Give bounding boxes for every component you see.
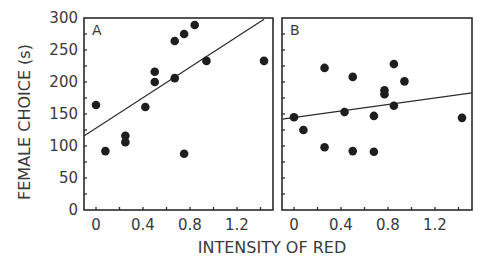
panel-b: 00.40.81.2B xyxy=(282,18,473,234)
data-point xyxy=(348,147,357,156)
data-point xyxy=(380,90,389,99)
panel-label: A xyxy=(92,22,102,38)
y-tick-label: 150 xyxy=(49,105,78,123)
data-point xyxy=(390,101,399,110)
panel-a: 00.40.81.2A xyxy=(84,18,273,234)
plot-frame xyxy=(84,18,273,210)
data-point xyxy=(340,108,349,117)
data-point xyxy=(348,73,357,82)
panel-label: B xyxy=(290,22,300,38)
data-point xyxy=(190,21,199,30)
data-point xyxy=(320,143,329,152)
y-tick-label: 50 xyxy=(59,169,78,187)
data-point xyxy=(390,60,399,69)
data-point xyxy=(101,147,110,156)
data-point xyxy=(92,101,101,110)
data-point xyxy=(370,147,379,156)
data-point xyxy=(370,112,379,121)
data-point xyxy=(458,114,467,123)
data-point xyxy=(320,64,329,73)
data-point xyxy=(170,74,179,83)
data-point xyxy=(180,149,189,158)
scatter-chart: 00.40.81.2A00.40.81.2B050100150200250300… xyxy=(0,0,488,270)
data-point xyxy=(141,103,150,112)
data-point xyxy=(121,138,130,147)
y-tick-label: 200 xyxy=(49,73,78,91)
data-point xyxy=(290,113,299,122)
x-axis-title: INTENSITY OF RED xyxy=(198,238,346,257)
x-tick-label: 0.4 xyxy=(329,216,353,234)
x-tick-label: 0 xyxy=(289,216,299,234)
y-tick-label: 0 xyxy=(68,201,78,219)
data-point xyxy=(299,126,308,135)
x-tick-label: 0.8 xyxy=(178,216,202,234)
x-tick-label: 0.4 xyxy=(131,216,155,234)
y-tick-label: 250 xyxy=(49,41,78,59)
x-tick-label: 1.2 xyxy=(225,216,249,234)
data-point xyxy=(260,57,269,66)
x-tick-label: 0 xyxy=(91,216,101,234)
x-tick-label: 1.2 xyxy=(423,216,447,234)
data-point xyxy=(170,37,179,46)
data-point xyxy=(150,67,159,76)
y-axis-title: FEMALE CHOICE (s) xyxy=(15,44,34,200)
data-point xyxy=(202,57,211,66)
y-tick-label: 300 xyxy=(49,9,78,27)
data-point xyxy=(180,30,189,39)
data-point xyxy=(150,78,159,87)
x-tick-label: 0.8 xyxy=(376,216,400,234)
y-tick-label: 100 xyxy=(49,137,78,155)
data-point xyxy=(400,77,409,86)
